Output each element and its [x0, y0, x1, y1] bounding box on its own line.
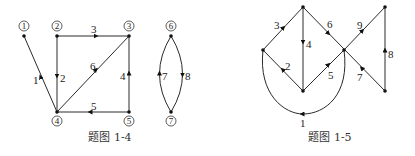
node-bottom [301, 89, 305, 93]
node-label-1: 1 [19, 21, 29, 31]
svg-text:4: 4 [55, 116, 60, 126]
arrow-edge-1 [41, 77, 42, 78]
node-1 [22, 34, 26, 38]
svg-text:5: 5 [127, 116, 132, 126]
edge-label-8: 8 [185, 70, 191, 82]
node-5 [127, 110, 131, 114]
svg-text:2: 2 [55, 21, 60, 31]
node-2 [55, 34, 59, 38]
edge-label-2: 2 [60, 72, 66, 84]
node-6 [169, 34, 173, 38]
node-7 [169, 110, 173, 114]
edge-label-6: 6 [327, 18, 333, 30]
figure-caption: 题图 1-5 [308, 131, 351, 144]
edge-label-4: 4 [120, 70, 126, 82]
svg-text:3: 3 [127, 21, 132, 31]
node-left [261, 48, 265, 52]
node-label-4: 4 [52, 116, 62, 126]
edge-9 [344, 7, 385, 50]
svg-text:1: 1 [22, 21, 27, 31]
node-bottom-right [383, 89, 387, 93]
edge-label-8: 8 [388, 48, 394, 60]
node-center-right [342, 48, 346, 52]
node-top [301, 5, 305, 9]
figure-1-4: 1 2 3 4 5 6 7 1 2 3 4 5 6 [19, 21, 191, 144]
edge-label-4: 4 [306, 38, 312, 50]
svg-text:7: 7 [169, 116, 174, 126]
edge-label-5: 5 [91, 100, 97, 112]
figure-1-5: 1 2 3 4 5 6 7 8 9 题图 1-5 [261, 5, 394, 144]
figure-caption: 题图 1-4 [88, 131, 131, 144]
edge-1 [262, 50, 345, 114]
edge-5 [303, 50, 344, 91]
node-label-2: 2 [52, 21, 62, 31]
node-top-right [383, 5, 387, 9]
edge-label-3: 3 [91, 23, 97, 35]
svg-text:6: 6 [169, 21, 174, 31]
edge-label-1: 1 [33, 74, 39, 86]
node-label-5: 5 [124, 116, 134, 126]
edge-1 [24, 36, 57, 112]
edge-8 [171, 36, 183, 112]
edge-label-9: 9 [357, 19, 363, 31]
graph-diagrams: 1 2 3 4 5 6 7 1 2 3 4 5 6 [0, 0, 415, 156]
edge-label-7: 7 [162, 70, 168, 82]
node-label-7: 7 [166, 116, 176, 126]
edge-label-5: 5 [328, 69, 334, 81]
edge-label-7: 7 [357, 71, 363, 83]
edge-label-3: 3 [274, 19, 280, 31]
node-3 [127, 34, 131, 38]
edge-label-1: 1 [300, 117, 306, 129]
edge-label-2: 2 [285, 60, 291, 72]
node-4 [55, 110, 59, 114]
node-label-3: 3 [124, 21, 134, 31]
edge-label-6: 6 [90, 60, 96, 72]
node-label-6: 6 [166, 21, 176, 31]
